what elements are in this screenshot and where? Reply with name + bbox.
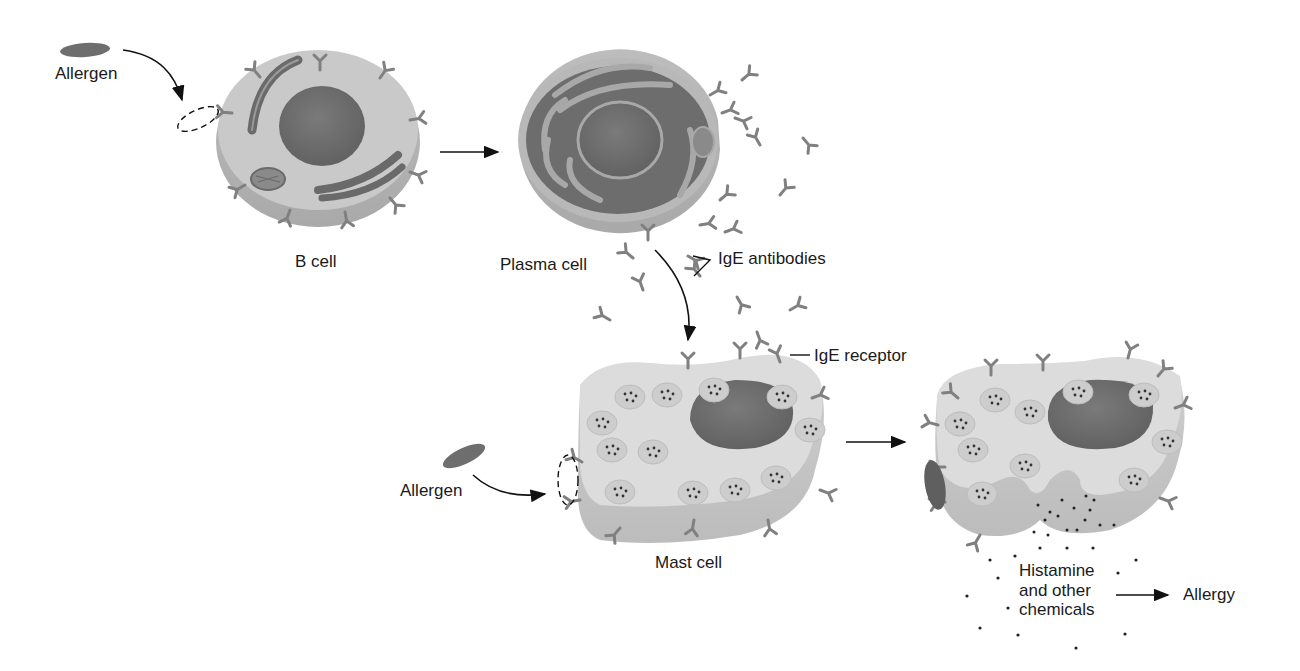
label-ige-antibodies: IgE antibodies bbox=[718, 249, 826, 269]
allergen-1 bbox=[60, 41, 111, 58]
plasma-cell-nucleus bbox=[578, 102, 662, 178]
binding-site-outline bbox=[174, 102, 221, 137]
allergen-2-arrow bbox=[473, 475, 545, 495]
plasma-to-mast-arrow bbox=[655, 250, 689, 340]
plasma-cell bbox=[518, 49, 817, 348]
label-plasma-cell: Plasma cell bbox=[500, 255, 587, 275]
b-cell-nucleus bbox=[279, 86, 365, 166]
allergen-2 bbox=[440, 439, 488, 473]
label-mast-cell: Mast cell bbox=[655, 553, 722, 573]
label-allergy: Allergy bbox=[1183, 585, 1235, 605]
activated-mast-cell bbox=[921, 342, 1191, 551]
label-histamine-line-1: Histamine bbox=[1019, 561, 1119, 581]
mast-binding-site-outline bbox=[558, 455, 578, 505]
label-b-cell: B cell bbox=[295, 252, 337, 272]
b-cell bbox=[216, 50, 426, 228]
allergen-1-arrow bbox=[123, 50, 182, 100]
label-histamine: Histamine and other chemicals bbox=[1019, 561, 1119, 620]
label-ige-receptor: IgE receptor bbox=[814, 346, 907, 366]
label-allergen-2: Allergen bbox=[400, 481, 462, 501]
mast-cell bbox=[564, 343, 836, 543]
label-histamine-line-3: chemicals bbox=[1019, 600, 1119, 620]
label-histamine-line-2: and other bbox=[1019, 581, 1119, 601]
label-allergen-1: Allergen bbox=[55, 64, 117, 84]
